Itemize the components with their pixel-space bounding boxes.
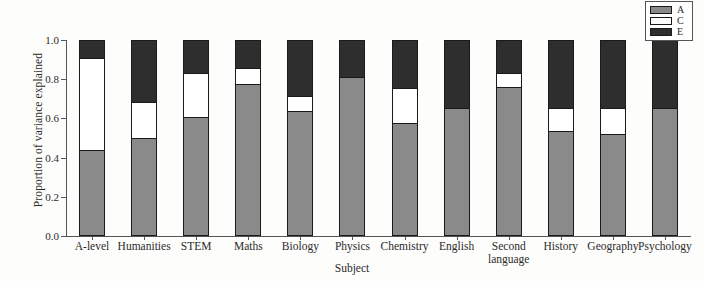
x-axis-tick-label: Geography bbox=[587, 240, 638, 253]
bar[interactable] bbox=[392, 40, 418, 236]
bar-segment-e[interactable] bbox=[183, 40, 209, 73]
bar-segment-c[interactable] bbox=[287, 96, 313, 111]
bar[interactable] bbox=[287, 40, 313, 236]
legend-item[interactable]: C bbox=[650, 16, 688, 26]
y-axis-tick-label: 0.4 bbox=[45, 152, 59, 164]
bar[interactable] bbox=[600, 40, 626, 236]
bar-segment-c[interactable] bbox=[600, 108, 626, 134]
bar-segment-e[interactable] bbox=[392, 40, 418, 88]
x-axis-line bbox=[66, 236, 691, 237]
bar-segment-c[interactable] bbox=[131, 102, 157, 138]
legend-label: C bbox=[677, 16, 684, 26]
bar-segment-c[interactable] bbox=[496, 73, 522, 87]
x-axis-tick-label: English bbox=[439, 240, 474, 253]
legend-swatch bbox=[650, 6, 672, 14]
bar[interactable] bbox=[339, 40, 365, 236]
bar-segment-e[interactable] bbox=[600, 40, 626, 108]
y-axis-tick-label: 0.2 bbox=[45, 191, 59, 203]
bar-segment-e[interactable] bbox=[652, 40, 678, 108]
bar[interactable] bbox=[444, 40, 470, 236]
bar-segment-c[interactable] bbox=[548, 108, 574, 132]
bar-segment-e[interactable] bbox=[235, 40, 261, 68]
y-axis-line bbox=[66, 40, 67, 236]
legend-swatch bbox=[650, 28, 672, 36]
legend-label: A bbox=[677, 5, 684, 15]
x-axis-tick-label: History bbox=[544, 240, 579, 253]
bar[interactable] bbox=[131, 40, 157, 236]
chart-figure: Proportion of variance explained 0.00.20… bbox=[0, 0, 704, 281]
legend-item[interactable]: E bbox=[650, 27, 688, 37]
bar[interactable] bbox=[652, 40, 678, 236]
bar-segment-a[interactable] bbox=[600, 134, 626, 236]
bar-segment-a[interactable] bbox=[183, 117, 209, 236]
bar-segment-a[interactable] bbox=[392, 123, 418, 236]
bar-segment-e[interactable] bbox=[444, 40, 470, 108]
bar-segment-e[interactable] bbox=[496, 40, 522, 73]
plot-area: 0.00.20.40.60.81.0 bbox=[66, 40, 691, 236]
bar-segment-e[interactable] bbox=[339, 40, 365, 77]
bar-segment-a[interactable] bbox=[496, 87, 522, 236]
bar[interactable] bbox=[548, 40, 574, 236]
bar[interactable] bbox=[496, 40, 522, 236]
bar-segment-c[interactable] bbox=[392, 88, 418, 123]
y-axis-tick-label: 0.0 bbox=[45, 230, 59, 242]
y-axis-tick-label: 0.8 bbox=[45, 73, 59, 85]
legend-item[interactable]: A bbox=[650, 5, 688, 15]
bar-segment-a[interactable] bbox=[235, 84, 261, 236]
x-axis-tick-label: Humanities bbox=[118, 240, 171, 253]
bar-segment-c[interactable] bbox=[183, 73, 209, 117]
y-axis-tick-mark bbox=[61, 158, 66, 159]
x-axis-tick-label: Physics bbox=[335, 240, 370, 253]
bar-segment-c[interactable] bbox=[235, 68, 261, 84]
x-axis-tick-label: STEM bbox=[181, 240, 212, 253]
legend: ACE bbox=[645, 1, 693, 41]
bar-segment-e[interactable] bbox=[548, 40, 574, 108]
x-axis-tick-label: Psychology bbox=[638, 240, 692, 253]
bar-segment-a[interactable] bbox=[339, 77, 365, 236]
bar-segment-a[interactable] bbox=[79, 150, 105, 236]
y-axis-tick-mark bbox=[61, 118, 66, 119]
bar-segment-e[interactable] bbox=[131, 40, 157, 102]
y-axis-title: Proportion of variance explained bbox=[32, 30, 44, 230]
x-axis-tick-label: A-level bbox=[75, 240, 109, 253]
bar[interactable] bbox=[235, 40, 261, 236]
legend-label: E bbox=[677, 27, 683, 37]
bar[interactable] bbox=[79, 40, 105, 236]
y-axis-tick-mark bbox=[61, 40, 66, 41]
y-axis-tick-mark bbox=[61, 79, 66, 80]
y-axis-tick-label: 1.0 bbox=[45, 34, 59, 46]
y-axis-tick-mark bbox=[61, 236, 66, 237]
x-axis-tick-label: Chemistry bbox=[381, 240, 429, 253]
bar-segment-e[interactable] bbox=[79, 40, 105, 58]
bar-segment-e[interactable] bbox=[287, 40, 313, 96]
x-axis-tick-label: Biology bbox=[282, 240, 319, 253]
x-axis-tick-label: Maths bbox=[234, 240, 263, 253]
y-axis-tick-label: 0.6 bbox=[45, 112, 59, 124]
legend-swatch bbox=[650, 17, 672, 25]
x-axis-title: Subject bbox=[0, 262, 704, 274]
y-axis-tick-mark bbox=[61, 197, 66, 198]
bar-segment-a[interactable] bbox=[652, 108, 678, 236]
bar-segment-a[interactable] bbox=[131, 138, 157, 236]
bar-segment-c[interactable] bbox=[79, 58, 105, 150]
bar-segment-a[interactable] bbox=[444, 108, 470, 236]
bar[interactable] bbox=[183, 40, 209, 236]
bar-segment-a[interactable] bbox=[548, 131, 574, 236]
bar-segment-a[interactable] bbox=[287, 111, 313, 236]
